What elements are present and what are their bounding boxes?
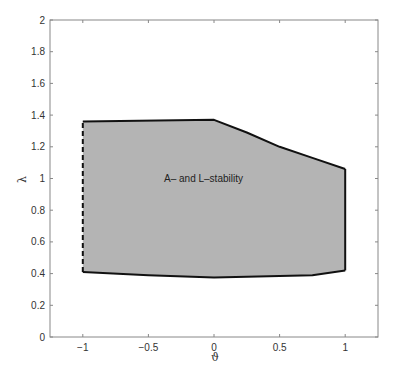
y-tick-label: 0 bbox=[39, 332, 45, 343]
stability-region-chart: −1−0.500.51 00.20.40.60.811.21.41.61.82 … bbox=[0, 0, 396, 376]
y-tick-label: 0.4 bbox=[31, 268, 45, 279]
x-tick-label: 0.5 bbox=[273, 342, 287, 353]
y-tick-label: 1.8 bbox=[31, 46, 45, 57]
x-axis-label: ϑ bbox=[211, 351, 219, 364]
x-tick-label: 1 bbox=[342, 342, 348, 353]
x-tick-label: −0.5 bbox=[139, 342, 159, 353]
y-tick-label: 0.8 bbox=[31, 205, 45, 216]
region-annotation: A– and L–stability bbox=[164, 173, 243, 184]
y-tick-label: 0.6 bbox=[31, 236, 45, 247]
y-tick-label: 1.2 bbox=[31, 141, 45, 152]
y-axis-label: λ bbox=[16, 176, 29, 183]
y-tick-label: 1 bbox=[39, 173, 45, 184]
y-tick-label: 0.2 bbox=[31, 300, 45, 311]
y-tick-label: 2 bbox=[39, 15, 45, 26]
y-tick-label: 1.4 bbox=[31, 110, 45, 121]
x-tick-label: −1 bbox=[77, 342, 89, 353]
y-tick-label: 1.6 bbox=[31, 78, 45, 89]
